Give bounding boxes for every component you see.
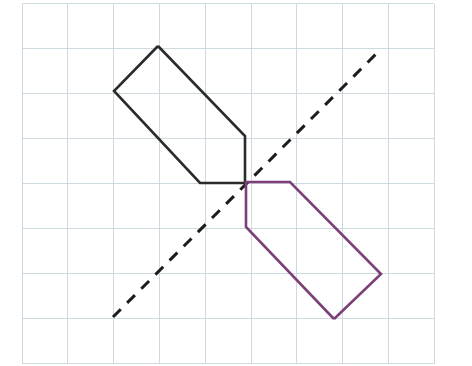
polygon-image [246, 182, 381, 319]
polygon-preimage [114, 46, 245, 183]
reflection-figure-svg [0, 0, 472, 366]
figure-canvas [0, 0, 472, 366]
